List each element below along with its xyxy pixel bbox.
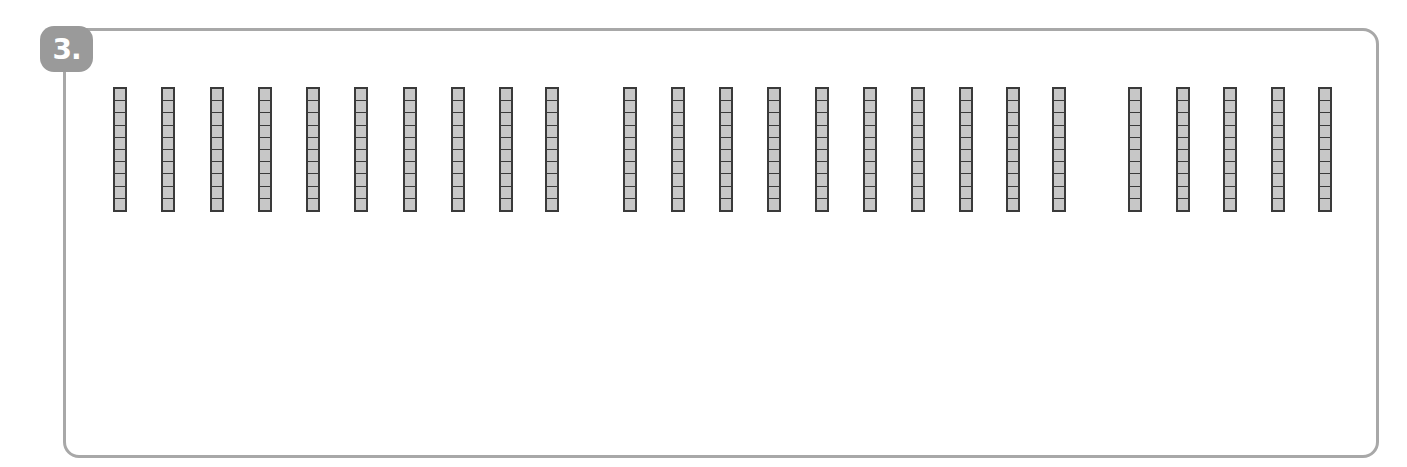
unit-cell bbox=[308, 126, 318, 138]
ten-rod bbox=[1176, 87, 1190, 212]
unit-cell bbox=[405, 162, 415, 174]
unit-cell bbox=[356, 150, 366, 162]
unit-cell bbox=[308, 113, 318, 125]
unit-cell bbox=[163, 187, 173, 199]
unit-cell bbox=[625, 126, 635, 138]
unit-cell bbox=[817, 199, 827, 210]
unit-cell bbox=[1054, 187, 1064, 199]
unit-cell bbox=[1178, 150, 1188, 162]
unit-cell bbox=[721, 138, 731, 150]
unit-cell bbox=[260, 101, 270, 113]
unit-cell bbox=[1320, 101, 1330, 113]
unit-cell bbox=[961, 199, 971, 210]
unit-cell bbox=[961, 162, 971, 174]
unit-cell bbox=[1054, 101, 1064, 113]
unit-cell bbox=[625, 187, 635, 199]
unit-cell bbox=[405, 126, 415, 138]
unit-cell bbox=[115, 174, 125, 186]
unit-cell bbox=[1008, 138, 1018, 150]
unit-cell bbox=[260, 138, 270, 150]
unit-cell bbox=[115, 126, 125, 138]
unit-cell bbox=[769, 162, 779, 174]
unit-cell bbox=[673, 162, 683, 174]
unit-cell bbox=[405, 199, 415, 210]
unit-cell bbox=[1320, 126, 1330, 138]
unit-cell bbox=[405, 113, 415, 125]
unit-cell bbox=[673, 187, 683, 199]
unit-cell bbox=[721, 150, 731, 162]
unit-cell bbox=[1273, 150, 1283, 162]
unit-cell bbox=[1320, 150, 1330, 162]
unit-cell bbox=[260, 113, 270, 125]
ten-rod bbox=[815, 87, 829, 212]
unit-cell bbox=[547, 101, 557, 113]
unit-cell bbox=[913, 101, 923, 113]
unit-cell bbox=[673, 150, 683, 162]
unit-cell bbox=[1130, 174, 1140, 186]
unit-cell bbox=[961, 150, 971, 162]
unit-cell bbox=[308, 174, 318, 186]
unit-cell bbox=[913, 162, 923, 174]
unit-cell bbox=[1225, 113, 1235, 125]
unit-cell bbox=[115, 162, 125, 174]
unit-cell bbox=[721, 126, 731, 138]
unit-cell bbox=[501, 162, 511, 174]
unit-cell bbox=[453, 101, 463, 113]
ten-rod bbox=[719, 87, 733, 212]
unit-cell bbox=[547, 162, 557, 174]
unit-cell bbox=[1008, 113, 1018, 125]
unit-cell bbox=[308, 162, 318, 174]
unit-cell bbox=[1130, 89, 1140, 101]
unit-cell bbox=[260, 199, 270, 210]
unit-cell bbox=[308, 150, 318, 162]
unit-cell bbox=[769, 174, 779, 186]
unit-cell bbox=[1054, 138, 1064, 150]
unit-cell bbox=[1178, 138, 1188, 150]
unit-cell bbox=[163, 150, 173, 162]
unit-cell bbox=[501, 150, 511, 162]
unit-cell bbox=[115, 113, 125, 125]
unit-cell bbox=[547, 187, 557, 199]
unit-cell bbox=[405, 89, 415, 101]
unit-cell bbox=[865, 150, 875, 162]
unit-cell bbox=[1178, 89, 1188, 101]
unit-cell bbox=[356, 101, 366, 113]
unit-cell bbox=[501, 89, 511, 101]
unit-cell bbox=[501, 199, 511, 210]
unit-cell bbox=[1320, 162, 1330, 174]
unit-cell bbox=[1320, 174, 1330, 186]
unit-cell bbox=[721, 89, 731, 101]
unit-cell bbox=[1178, 162, 1188, 174]
unit-cell bbox=[212, 89, 222, 101]
unit-cell bbox=[673, 126, 683, 138]
ten-rod bbox=[1052, 87, 1066, 212]
unit-cell bbox=[260, 187, 270, 199]
unit-cell bbox=[212, 101, 222, 113]
unit-cell bbox=[721, 174, 731, 186]
unit-cell bbox=[961, 174, 971, 186]
unit-cell bbox=[673, 174, 683, 186]
unit-cell bbox=[212, 138, 222, 150]
problem-number-badge: 3. bbox=[40, 26, 93, 72]
unit-cell bbox=[865, 162, 875, 174]
unit-cell bbox=[817, 162, 827, 174]
unit-cell bbox=[1178, 199, 1188, 210]
unit-cell bbox=[1273, 174, 1283, 186]
unit-cell bbox=[1008, 150, 1018, 162]
unit-cell bbox=[1225, 162, 1235, 174]
unit-cell bbox=[1130, 150, 1140, 162]
ten-rod bbox=[1223, 87, 1237, 212]
unit-cell bbox=[1054, 174, 1064, 186]
unit-cell bbox=[769, 150, 779, 162]
unit-cell bbox=[212, 150, 222, 162]
unit-cell bbox=[865, 199, 875, 210]
unit-cell bbox=[721, 101, 731, 113]
unit-cell bbox=[1054, 199, 1064, 210]
unit-cell bbox=[212, 187, 222, 199]
unit-cell bbox=[547, 174, 557, 186]
unit-cell bbox=[817, 89, 827, 101]
unit-cell bbox=[163, 101, 173, 113]
unit-cell bbox=[865, 187, 875, 199]
unit-cell bbox=[1130, 126, 1140, 138]
unit-cell bbox=[115, 199, 125, 210]
